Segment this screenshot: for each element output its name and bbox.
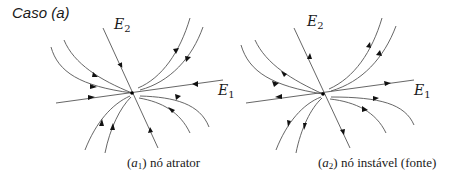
caption-a2: (a2) nó instável (fonte) <box>318 155 436 171</box>
e2-label-a2: E2 <box>307 14 324 31</box>
equilibrium-point <box>130 91 134 95</box>
panel-a2-trajectories <box>241 18 414 153</box>
trajectory <box>105 97 131 153</box>
trajectory <box>255 40 323 94</box>
trajectory <box>138 18 190 88</box>
e1-label-a1: E1 <box>218 83 235 100</box>
arrow-icon <box>366 42 371 48</box>
arrow-icon <box>175 94 181 100</box>
e1-label-a2: E1 <box>414 83 431 100</box>
arrow-icon <box>117 62 124 69</box>
arrow-icon <box>340 129 345 135</box>
panel-a2-arrows <box>272 42 391 135</box>
arrow-icon <box>192 81 198 87</box>
trajectory <box>329 18 382 89</box>
arrow-icon <box>307 53 312 59</box>
trajectory <box>241 45 323 94</box>
trajectory <box>139 98 190 133</box>
arrow-icon <box>173 48 179 54</box>
phase-portrait-figure: Caso (a) <box>0 0 457 179</box>
caption-a1: (a1) nó atrator <box>127 155 200 171</box>
arrow-icon <box>185 56 191 62</box>
arrow-icon <box>376 50 382 56</box>
arrow-icon <box>281 71 287 77</box>
arrow-icon <box>110 123 115 130</box>
arrow-icon <box>384 81 391 86</box>
e2-label-a1: E2 <box>114 17 131 34</box>
trajectory <box>296 98 322 153</box>
trajectory <box>330 99 386 133</box>
arrow-icon <box>92 72 98 77</box>
arrow-icon <box>303 123 307 130</box>
equilibrium-point <box>321 92 325 96</box>
